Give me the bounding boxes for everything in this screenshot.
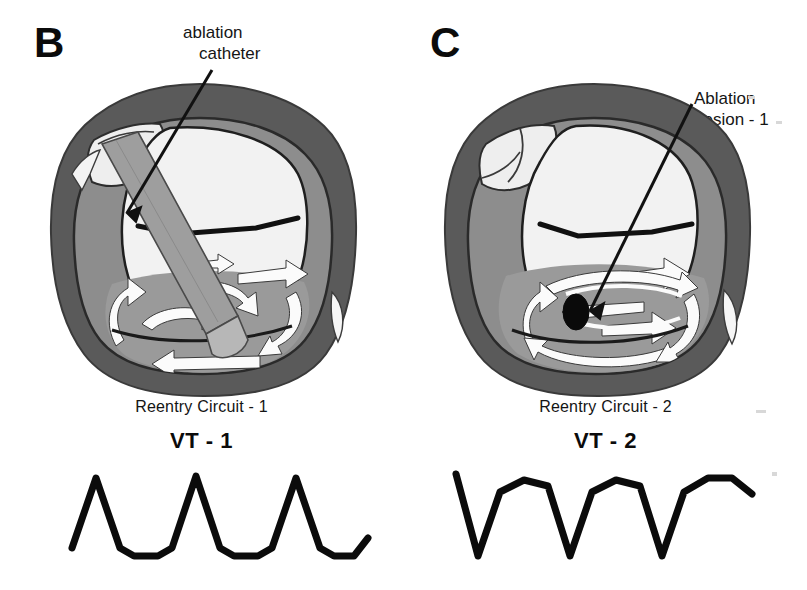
- ablation-lesion-marker-c: [563, 294, 589, 330]
- reentry-circuit-label-c: Reentry Circuit - 2: [404, 398, 807, 416]
- caption-block-c: Reentry Circuit - 2 VT - 2: [404, 398, 807, 454]
- ecg-wrap-b: [0, 456, 403, 566]
- heart-cross-section-b: [42, 78, 362, 398]
- vt-label-b: VT - 1: [0, 428, 403, 454]
- panel-letter-c: C: [430, 22, 460, 64]
- vt-2-waveform: [456, 474, 752, 556]
- heart-diagram-b: [42, 78, 362, 398]
- reentry-circuit-label-b: Reentry Circuit - 1: [0, 398, 403, 416]
- caption-block-b: Reentry Circuit - 1 VT - 1: [0, 398, 403, 454]
- callout-ablation-catheter-line1: ablation: [183, 22, 260, 43]
- vt-2-ecg-tracing: [452, 456, 757, 566]
- vt-label-c: VT - 2: [404, 428, 807, 454]
- scan-artifact: [756, 410, 766, 413]
- vt-1-waveform: [72, 476, 368, 556]
- heart-diagram-c: [436, 78, 756, 398]
- figure-root: B ablation catheter: [0, 0, 807, 590]
- callout-ablation-catheter-line2: catheter: [199, 43, 260, 64]
- panel-c: C Ablation Lesion - 1: [404, 0, 807, 590]
- scan-artifact: [772, 472, 777, 476]
- scan-artifact: [748, 96, 755, 99]
- vt-1-ecg-tracing: [68, 456, 373, 566]
- ecg-wrap-c: [404, 456, 807, 566]
- panel-letter-b: B: [34, 22, 64, 64]
- panel-b: B ablation catheter: [0, 0, 403, 590]
- heart-cross-section-c: [436, 78, 756, 398]
- callout-ablation-catheter: ablation catheter: [183, 22, 260, 64]
- scan-artifact: [776, 121, 782, 124]
